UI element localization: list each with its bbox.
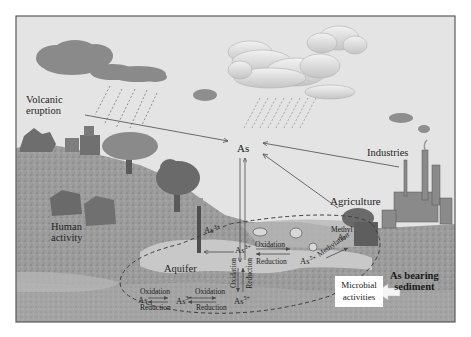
as-bearing-sediment-label: As bearing sediment [390, 270, 439, 292]
as-center-label: As [237, 143, 249, 154]
human-line-2: activity [51, 232, 83, 243]
human-activity-label: Human activity [51, 221, 83, 243]
lower-as5-label: As5+ [234, 294, 250, 306]
microbial-line-1: Microbial [335, 279, 383, 291]
lower-as5-sup: 5+ [243, 295, 249, 301]
volcanic-line-2: eruption [26, 105, 63, 116]
as3-well-sup: 3+ [213, 224, 219, 230]
upper-reduction-label: Reduction [256, 258, 287, 266]
lower-as3-label: As3+ [176, 294, 192, 306]
upper-as3-sup: 3+ [244, 244, 250, 250]
upper-oxidation-label: Oxidation [255, 241, 285, 249]
upper-as5-sup: 5+ [309, 255, 315, 261]
small-dark-cloud [193, 89, 217, 101]
sediment-line-2: sediment [390, 281, 439, 292]
microbial-activities-box: Microbial activities [335, 276, 383, 307]
volcanic-eruption-label: Volcanic eruption [26, 94, 63, 116]
vertical-reduction-label: Reduction [246, 258, 254, 289]
sediment-line-1: As bearing [390, 270, 439, 281]
small-dark-cloud-3 [418, 125, 430, 133]
upper-as5-label: As5+ [300, 254, 316, 266]
lower-oxidation-2-label: Oxidation [195, 288, 225, 296]
human-line-1: Human [51, 221, 83, 232]
lower-as3-sup: 3+ [185, 295, 191, 301]
upper-as3-label: As3+ [235, 243, 251, 255]
arsenic-cycle-diagram: Volcanic eruption Industries Agriculture… [0, 0, 471, 337]
industries-label: Industries [367, 147, 408, 158]
small-dark-cloud-2 [389, 113, 413, 123]
agriculture-label: Agriculture [330, 196, 381, 207]
lower-reduction-1-label: Reduction [140, 304, 171, 312]
as3-well-label: As3+ [204, 223, 220, 235]
microbial-line-2: activities [335, 291, 383, 303]
aquifer-label: Aquifer [164, 263, 197, 274]
lower-reduction-2-label: Reduction [196, 304, 227, 312]
vertical-oxidation-label: Oxidation [230, 258, 238, 288]
volcanic-line-1: Volcanic [26, 94, 63, 105]
